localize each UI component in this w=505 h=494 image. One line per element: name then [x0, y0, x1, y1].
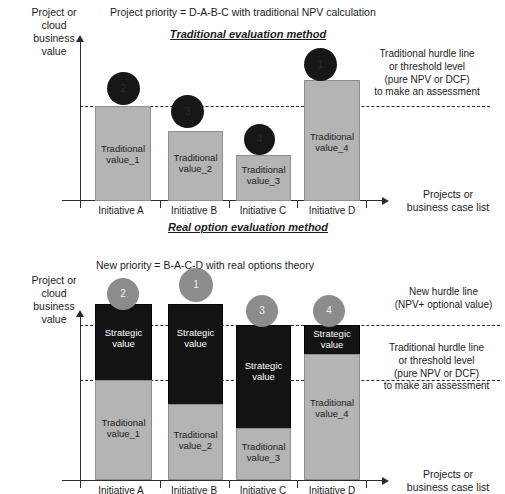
- top-bar-c-label: Traditional value_3: [237, 164, 290, 187]
- top-category-initiative-b: Initiative B: [155, 205, 233, 217]
- bottom-method-title: Real option evaluation method: [128, 221, 368, 234]
- top-bar-initiative-d: Traditional value_4: [304, 80, 360, 201]
- top-bar-b-label: Traditional value_2: [169, 152, 222, 175]
- bottom-x-axis-arrow: [382, 477, 389, 485]
- bottom-priority-badge-a: 2: [107, 278, 139, 310]
- top-bar-initiative-a: Traditional value_1: [95, 106, 151, 201]
- bottom-y-axis: [80, 316, 81, 481]
- bottom-bar-b-traditional: Traditional value_2: [168, 404, 223, 480]
- bottom-category-initiative-a: Initiative A: [82, 485, 160, 494]
- bottom-bar-d-traditional: Traditional value_4: [304, 354, 360, 480]
- bottom-x-axis-caption: Projects or business case list: [392, 468, 504, 494]
- top-bar-a-label: Traditional value_1: [96, 143, 150, 166]
- bottom-bar-d-strategic-label: Strategic value: [305, 328, 359, 351]
- bottom-bar-a-strategic: Strategic value: [95, 304, 152, 381]
- top-category-initiative-d: Initiative D: [293, 205, 371, 217]
- top-method-title: Traditional evaluation method: [128, 28, 368, 41]
- top-bar-initiative-b: Traditional value_2: [168, 131, 223, 201]
- top-bar-initiative-c: Traditional value_3: [236, 155, 291, 201]
- bottom-bar-a-strategic-label: Strategic value: [96, 327, 151, 350]
- bottom-bar-c-strategic: Strategic value: [236, 325, 291, 429]
- top-priority-badge-b: 3: [171, 95, 204, 128]
- bottom-bar-b-strategic: Strategic value: [168, 304, 223, 405]
- bottom-traditional-hurdle-annotation: Traditional hurdle line or threshold lev…: [368, 342, 505, 393]
- bottom-bar-b-traditional-label: Traditional value_2: [169, 429, 222, 452]
- bottom-priority-badge-b: 1: [179, 268, 213, 302]
- bottom-bar-d-traditional-label: Traditional value_4: [305, 397, 359, 420]
- bottom-bar-c-traditional-label: Traditional value_3: [237, 441, 290, 464]
- bottom-headline: New priority = B-A-C-D with real options…: [96, 259, 314, 271]
- bottom-category-initiative-c: Initiative C: [224, 485, 302, 494]
- top-category-initiative-a: Initiative A: [82, 205, 160, 217]
- bottom-category-initiative-b: Initiative B: [155, 485, 233, 494]
- bottom-bar-a-traditional-label: Traditional value_1: [96, 417, 151, 440]
- top-priority-badge-a: 2: [107, 72, 140, 105]
- top-category-initiative-c: Initiative C: [224, 205, 302, 217]
- real-option-evaluation-panel: Real option evaluation method New priori…: [0, 246, 505, 494]
- top-x-axis-arrow: [382, 197, 389, 205]
- traditional-evaluation-panel: Project priority = D-A-B-C with traditio…: [0, 0, 505, 246]
- top-x-axis-caption: Projects or business case list: [392, 188, 504, 214]
- top-priority-badge-c: 4: [244, 124, 275, 155]
- bottom-bar-d-strategic: Strategic value: [304, 325, 360, 355]
- bottom-priority-badge-c: 3: [246, 295, 278, 327]
- bottom-category-initiative-d: Initiative D: [293, 485, 371, 494]
- bottom-bar-a-traditional: Traditional value_1: [95, 380, 152, 480]
- top-priority-badge-d: 1: [304, 48, 337, 81]
- bottom-x-axis: [62, 480, 382, 481]
- top-hurdle-annotation: Traditional hurdle line or threshold lev…: [352, 48, 502, 99]
- top-tick-origin: [80, 200, 81, 208]
- bottom-bar-c-traditional: Traditional value_3: [236, 428, 291, 480]
- bottom-priority-badge-d: 4: [313, 295, 345, 327]
- top-bar-d-label: Traditional value_4: [305, 131, 359, 154]
- bottom-bar-c-strategic-label: Strategic value: [237, 360, 290, 383]
- bottom-bar-b-strategic-label: Strategic value: [169, 327, 222, 350]
- top-y-axis: [80, 41, 81, 201]
- top-headline: Project priority = D-A-B-C with traditio…: [110, 6, 376, 18]
- bottom-new-hurdle-annotation: New hurdle line (NPV+ optional value): [382, 286, 505, 312]
- bottom-tick-origin: [80, 480, 81, 488]
